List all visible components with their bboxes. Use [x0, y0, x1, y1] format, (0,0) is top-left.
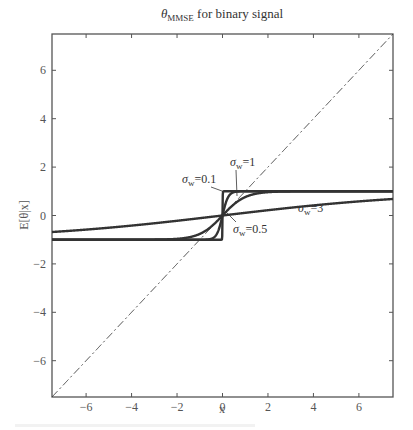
svg-text:σw=0.1: σw=0.1 — [182, 172, 216, 188]
chart-title: θMMSE for binary signal — [161, 6, 283, 23]
y-tick-label: 4 — [40, 112, 46, 126]
x-tick-label: −6 — [80, 400, 93, 414]
y-tick-label: 0 — [40, 209, 46, 223]
svg-text:σw=0.5: σw=0.5 — [233, 222, 267, 238]
x-tick-label: 4 — [310, 400, 316, 414]
svg-text:σw=3: σw=3 — [298, 201, 323, 217]
annotation-sigma-1: σw=1 — [230, 155, 255, 196]
x-tick-label: −4 — [125, 400, 138, 414]
y-tick-label: −4 — [33, 305, 46, 319]
x-tick-label: 2 — [265, 400, 271, 414]
y-tick-label: −2 — [33, 257, 46, 271]
svg-text:σw=1: σw=1 — [230, 155, 255, 171]
chart: θMMSE for binary signal −6−4−20246−6−4−2… — [0, 0, 413, 430]
annotation-sigma-0-5: σw=0.5 — [226, 212, 267, 238]
y-axis-label: E[θ|x] — [17, 200, 31, 229]
x-axis-label: x — [219, 402, 225, 416]
y-tick-label: 6 — [40, 63, 46, 77]
y-tick-label: −6 — [33, 354, 46, 368]
caption-ghost — [15, 424, 255, 427]
y-tick-label: 2 — [40, 160, 46, 174]
x-tick-label: 6 — [356, 400, 362, 414]
x-tick-label: −2 — [171, 400, 184, 414]
annotation-sigma-0-1: σw=0.1 — [182, 172, 222, 191]
annotation-sigma-3: σw=3 — [298, 201, 323, 217]
data-curves — [52, 34, 393, 397]
